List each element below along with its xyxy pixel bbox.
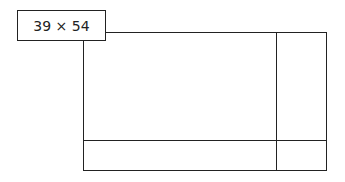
- dimension-label: 39 × 54: [17, 10, 106, 41]
- outer-rectangle: [83, 32, 327, 171]
- horizontal-divider: [83, 140, 327, 141]
- vertical-divider: [276, 32, 277, 171]
